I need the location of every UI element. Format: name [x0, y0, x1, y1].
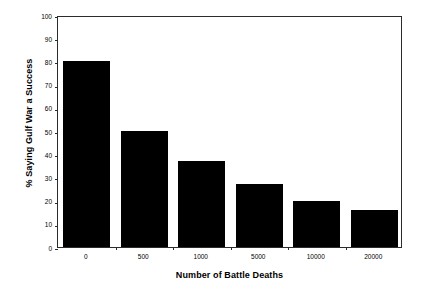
y-tick-label: 30: [26, 175, 52, 182]
x-tick-label: 0: [84, 252, 88, 261]
bars-layer: [58, 17, 401, 247]
x-tick-mark: [116, 247, 117, 250]
bar: [63, 61, 110, 247]
y-tick-mark: [55, 156, 58, 157]
y-tick-label: 20: [26, 198, 52, 205]
x-tick-mark: [288, 247, 289, 250]
y-tick-label: 70: [26, 82, 52, 89]
y-tick-label: 90: [26, 36, 52, 43]
y-tick-mark: [55, 110, 58, 111]
y-tick-mark: [55, 17, 58, 18]
bar: [236, 184, 283, 247]
x-axis-tick-labels: 0500100050001000020000: [57, 252, 402, 264]
y-tick-label: 10: [26, 221, 52, 228]
x-tick-label: 1000: [194, 252, 208, 261]
y-tick-label: 40: [26, 152, 52, 159]
bar: [351, 210, 398, 247]
x-tick-mark: [231, 247, 232, 250]
y-tick-mark: [55, 133, 58, 134]
y-tick-label: 100: [26, 13, 52, 20]
x-tick-mark: [173, 247, 174, 250]
bar: [178, 161, 225, 247]
y-tick-mark: [55, 249, 58, 250]
y-tick-mark: [55, 179, 58, 180]
x-tick-label: 5000: [251, 252, 265, 261]
bar: [121, 131, 168, 247]
x-tick-label: 500: [138, 252, 149, 261]
bar-chart: % Saying Gulf War a Success 010203040506…: [0, 0, 423, 298]
plot-area: [57, 16, 402, 248]
y-tick-mark: [55, 226, 58, 227]
x-tick-label: 20000: [364, 252, 382, 261]
x-axis-title: Number of Battle Deaths: [57, 270, 402, 280]
y-tick-mark: [55, 63, 58, 64]
x-tick-label: 10000: [307, 252, 325, 261]
x-tick-mark: [346, 247, 347, 250]
y-tick-mark: [55, 40, 58, 41]
y-tick-label: 60: [26, 105, 52, 112]
y-tick-mark: [55, 87, 58, 88]
y-tick-label: 50: [26, 129, 52, 136]
y-tick-label: 0: [26, 245, 52, 252]
y-tick-label: 80: [26, 59, 52, 66]
bar: [293, 201, 340, 247]
y-axis-tick-labels: 0102030405060708090100: [26, 16, 52, 248]
y-tick-mark: [55, 203, 58, 204]
